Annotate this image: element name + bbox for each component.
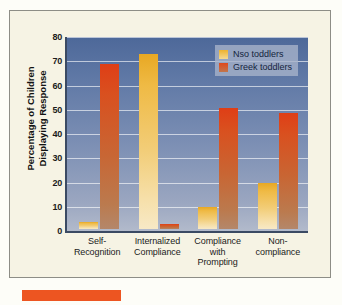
bar-greek-3 xyxy=(219,108,238,229)
y-axis-tick-20: 20 xyxy=(52,178,62,188)
bar-nso-3 xyxy=(198,207,217,229)
x-axis-label-line: Self- xyxy=(88,236,106,246)
bar-greek-1 xyxy=(100,64,119,229)
bar-greek-2 xyxy=(160,224,179,229)
plot-area-wrapper: Nso toddlers Greek toddlers xyxy=(65,37,308,233)
y-axis-title-line-1: Percentage of Children xyxy=(25,67,36,171)
legend-swatch-greek-icon xyxy=(219,63,228,72)
y-axis-tick-50: 50 xyxy=(52,105,62,115)
y-axis-tick-70: 70 xyxy=(52,56,62,66)
x-axis-label-2: InternalizedCompliance xyxy=(127,236,187,268)
bar-nso-1 xyxy=(79,222,98,229)
bar-group-2 xyxy=(129,37,189,229)
x-axis-label-line: Recognition xyxy=(74,247,120,257)
y-axis-tick-labels: 01020304050607080 xyxy=(38,31,62,239)
x-axis-label-line: with xyxy=(210,247,226,257)
legend-item-greek: Greek toddlers xyxy=(219,62,292,72)
y-axis-tick-60: 60 xyxy=(52,81,62,91)
x-axis-label-line: Internalized xyxy=(135,236,180,246)
bar-nso-2 xyxy=(139,54,158,229)
x-axis-label-line: compliance xyxy=(256,247,301,257)
legend-label-nso: Nso toddlers xyxy=(233,49,284,59)
bar-greek-4 xyxy=(279,113,298,229)
x-axis-label-4: Non-compliance xyxy=(248,236,308,268)
x-axis-tick-labels: Self-RecognitionInternalizedComplianceCo… xyxy=(67,236,308,268)
chart-legend: Nso toddlers Greek toddlers xyxy=(215,45,298,76)
x-axis-label-line: Prompting xyxy=(198,257,238,267)
bar-group-1 xyxy=(69,37,129,229)
bar-nso-4 xyxy=(258,183,277,229)
y-axis-tick-10: 10 xyxy=(52,202,62,212)
legend-swatch-nso-icon xyxy=(219,50,228,59)
legend-label-greek: Greek toddlers xyxy=(233,62,292,72)
y-axis-tick-40: 40 xyxy=(52,129,62,139)
x-axis-label-1: Self-Recognition xyxy=(67,236,127,268)
y-axis-tick-0: 0 xyxy=(57,226,62,236)
x-axis-label-3: CompliancewithPrompting xyxy=(188,236,248,268)
legend-item-nso: Nso toddlers xyxy=(219,49,292,59)
footer-marker-bar xyxy=(22,290,121,301)
x-axis-label-line: Compliance xyxy=(134,247,181,257)
chart-card: Percentage of Children Displaying Respon… xyxy=(9,10,331,278)
y-axis-tick-30: 30 xyxy=(52,153,62,163)
y-axis-tick-80: 80 xyxy=(52,32,62,42)
x-axis-label-line: Compliance xyxy=(194,236,241,246)
x-axis-label-line: Non- xyxy=(268,236,287,246)
